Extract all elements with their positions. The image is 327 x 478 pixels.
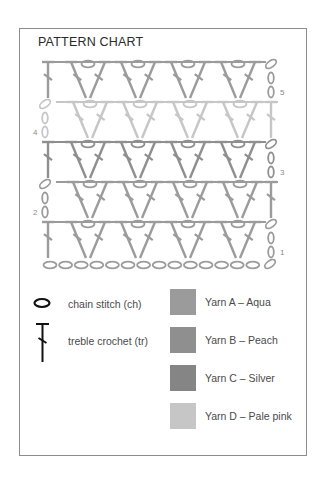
crochet-chart xyxy=(0,0,327,478)
foundation-chain xyxy=(44,258,277,270)
chart-row-4 xyxy=(38,98,278,138)
legend-yarn-c: Yarn C – Silver xyxy=(205,372,275,384)
legend-treble-label: treble crochet (tr) xyxy=(68,335,148,347)
row-number-3: 3 xyxy=(280,168,284,177)
swatch-yarn-a xyxy=(170,289,196,315)
row-number-1: 1 xyxy=(280,248,284,257)
chart-row-5 xyxy=(42,58,278,98)
chart-row-3 xyxy=(42,138,278,178)
swatch-yarn-c xyxy=(170,365,196,391)
legend-yarn-d: Yarn D – Pale pink xyxy=(205,410,292,422)
swatch-yarn-b xyxy=(170,327,196,353)
chain-stitch-icon xyxy=(32,296,52,310)
chart-row-2 xyxy=(38,178,278,218)
row-number-2: 2 xyxy=(33,208,37,217)
legend-yarn-b: Yarn B – Peach xyxy=(205,334,278,346)
legend-yarn-a: Yarn A – Aqua xyxy=(205,296,271,308)
legend-chain-label: chain stitch (ch) xyxy=(68,298,142,310)
row-number-5: 5 xyxy=(280,88,284,97)
row-number-4: 4 xyxy=(33,128,37,137)
swatch-yarn-d xyxy=(170,403,196,429)
chart-row-1 xyxy=(42,218,278,258)
treble-crochet-icon xyxy=(32,322,52,362)
